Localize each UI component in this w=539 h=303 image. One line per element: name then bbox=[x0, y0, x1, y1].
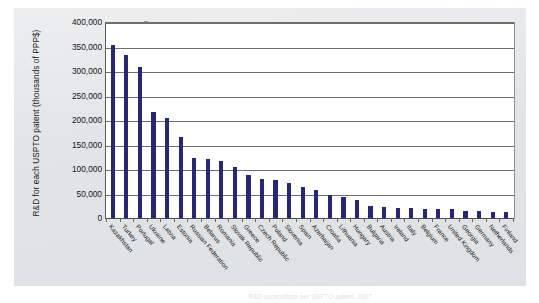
bar bbox=[409, 208, 413, 218]
y-axis-tick-label: 250,000 bbox=[44, 91, 102, 101]
bar bbox=[355, 200, 359, 218]
bar bbox=[179, 137, 183, 218]
x-axis-tick bbox=[418, 218, 419, 222]
bar bbox=[165, 118, 169, 218]
y-axis-tick-label: 400,000 bbox=[44, 17, 102, 27]
x-axis-tick bbox=[147, 218, 148, 222]
x-axis-tick bbox=[106, 218, 107, 222]
x-axis-tick bbox=[445, 218, 446, 222]
bar bbox=[450, 209, 454, 218]
bar bbox=[124, 55, 128, 218]
chart-figure: R&D for each USPTO patent (thousands of … bbox=[0, 0, 539, 303]
x-axis-tick bbox=[215, 218, 216, 222]
bar bbox=[233, 167, 237, 218]
x-axis-tick bbox=[160, 218, 161, 222]
bar bbox=[151, 112, 155, 218]
x-axis-tick bbox=[282, 218, 283, 222]
bar bbox=[111, 45, 115, 218]
y-axis-tick-labels: 400,000350,000300,000250,000200,000150,0… bbox=[40, 22, 102, 218]
x-axis-tick bbox=[499, 218, 500, 222]
bar bbox=[206, 159, 210, 218]
y-axis-tick-label: 150,000 bbox=[44, 140, 102, 150]
x-axis-tick bbox=[323, 218, 324, 222]
y-axis-tick-label: 100,000 bbox=[44, 164, 102, 174]
x-axis-tick bbox=[432, 218, 433, 222]
x-axis-tick bbox=[269, 218, 270, 222]
bar-series bbox=[106, 22, 513, 218]
bar bbox=[477, 211, 481, 218]
bar bbox=[287, 183, 291, 218]
bar bbox=[396, 208, 400, 218]
bar bbox=[301, 187, 305, 218]
x-axis-tick bbox=[513, 218, 514, 222]
bar bbox=[341, 197, 345, 218]
x-axis-tick bbox=[255, 218, 256, 222]
bar bbox=[138, 67, 142, 218]
bar bbox=[368, 206, 372, 218]
bar bbox=[273, 180, 277, 218]
x-axis-tick bbox=[337, 218, 338, 222]
y-axis-tick-label: 300,000 bbox=[44, 66, 102, 76]
x-axis-tick bbox=[174, 218, 175, 222]
x-axis-tick bbox=[310, 218, 311, 222]
bar bbox=[423, 209, 427, 218]
bar bbox=[246, 175, 250, 218]
x-axis-tick bbox=[459, 218, 460, 222]
bar bbox=[436, 209, 440, 218]
bar bbox=[314, 190, 318, 218]
x-axis-tick bbox=[201, 218, 202, 222]
y-axis-tick-label: 200,000 bbox=[44, 115, 102, 125]
x-axis-tick bbox=[133, 218, 134, 222]
x-axis-tick bbox=[187, 218, 188, 222]
x-axis-tick bbox=[404, 218, 405, 222]
bar bbox=[328, 195, 332, 218]
bar bbox=[192, 158, 196, 218]
x-axis-tick bbox=[377, 218, 378, 222]
bar bbox=[382, 207, 386, 218]
bar bbox=[463, 211, 467, 218]
x-axis-tick bbox=[486, 218, 487, 222]
y-axis-tick-label: 50,000 bbox=[44, 189, 102, 199]
x-axis-tick bbox=[228, 218, 229, 222]
x-axis-tick bbox=[296, 218, 297, 222]
x-axis-tick bbox=[364, 218, 365, 222]
bar bbox=[219, 161, 223, 218]
bar bbox=[260, 179, 264, 218]
x-axis-tick bbox=[391, 218, 392, 222]
x-axis-tick bbox=[350, 218, 351, 222]
figure-caption: R&D expenditure per USPTO patent, 2007 bbox=[150, 293, 470, 300]
x-axis-tick bbox=[120, 218, 121, 222]
x-axis-category-labels: KazakhstanTurkeyPortugalUkraineLatviaEst… bbox=[105, 223, 535, 285]
y-axis-tick-label: 350,000 bbox=[44, 42, 102, 52]
y-axis-tick-label: 0 bbox=[44, 213, 102, 223]
x-axis-tick bbox=[472, 218, 473, 222]
x-axis-tick bbox=[242, 218, 243, 222]
